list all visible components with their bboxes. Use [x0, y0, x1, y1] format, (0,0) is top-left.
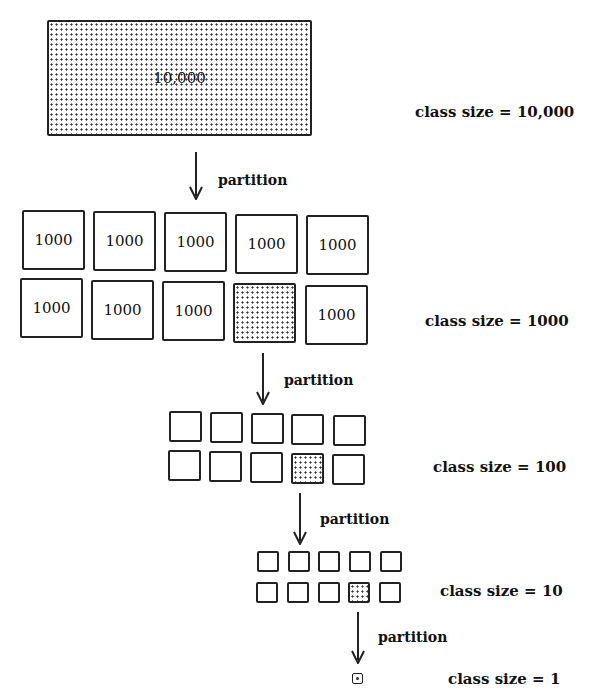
down-arrow-icon	[256, 353, 270, 405]
class-box-1000: 1000	[20, 278, 83, 338]
class-box-100	[291, 414, 324, 445]
class-box-value: 1000	[318, 236, 356, 254]
class-box-100	[332, 454, 365, 485]
class-size-label-1000: class size = 1000	[425, 312, 569, 330]
class-size-label-100: class size = 100	[433, 458, 566, 476]
class-box-10	[379, 582, 401, 603]
down-arrow-icon	[293, 493, 307, 545]
class-box-value: 1000	[34, 231, 72, 249]
class-box-1000: 1000	[93, 211, 156, 271]
class-box-value: 1000	[174, 302, 212, 320]
down-arrow-icon	[351, 612, 365, 664]
class-box-10	[257, 551, 279, 572]
class-box-highlighted	[291, 453, 324, 484]
class-box-10	[288, 551, 310, 572]
class-box-100	[209, 451, 242, 482]
class-box-value: 1000	[105, 232, 143, 250]
class-box-value: 10,000	[153, 69, 206, 87]
partition-label: partition	[378, 629, 447, 645]
class-box-10	[256, 582, 278, 603]
partition-label: partition	[284, 372, 353, 388]
class-box-value: 1000	[317, 306, 355, 324]
partition-label: partition	[320, 511, 389, 527]
class-box-1000: 1000	[164, 212, 227, 272]
class-box-100	[210, 412, 243, 443]
class-box-100	[168, 450, 201, 481]
class-box-1000: 1000	[91, 280, 154, 340]
class-box-highlighted	[233, 283, 296, 343]
class-box-10000: 10,000	[47, 20, 312, 136]
partition-label: partition	[218, 172, 287, 188]
class-box-100	[333, 415, 366, 446]
class-box-100	[251, 413, 284, 444]
class-box-value: 1000	[32, 299, 70, 317]
class-size-label-10000: class size = 10,000	[415, 103, 574, 121]
class-box-1	[352, 673, 363, 684]
class-size-label-10: class size = 10	[440, 582, 563, 600]
class-box-value: 1000	[103, 301, 141, 319]
class-box-1000: 1000	[306, 215, 369, 275]
class-box-10	[380, 551, 402, 572]
class-box-10	[318, 551, 340, 572]
class-box-1000: 1000	[235, 214, 298, 274]
down-arrow-icon	[189, 152, 203, 200]
class-box-value: 1000	[247, 235, 285, 253]
class-box-10	[318, 582, 340, 603]
class-box-1000: 1000	[22, 210, 85, 270]
class-size-label-1: class size = 1	[448, 670, 560, 688]
class-box-1000: 1000	[305, 285, 368, 345]
class-box-100	[250, 452, 283, 483]
class-box-100	[169, 411, 202, 442]
class-box-10	[287, 582, 309, 603]
class-box-1000: 1000	[162, 281, 225, 341]
class-box-10	[349, 551, 371, 572]
class-box-value: 1000	[176, 233, 214, 251]
class-box-highlighted	[348, 582, 370, 603]
